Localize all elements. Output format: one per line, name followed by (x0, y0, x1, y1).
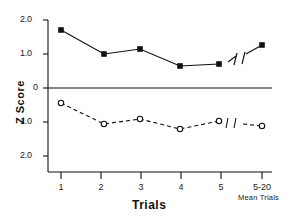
series-lower (58, 100, 264, 131)
xtick-sublabel-mean-trials: Mean Trials (238, 193, 279, 202)
xtick-label-5: 5-20 (246, 182, 278, 192)
xtick-label-3: 4 (171, 182, 191, 192)
ytick-label-1: 1.0 (20, 48, 32, 58)
y-axis-ticks (43, 20, 48, 156)
axis-break-marks-lower (226, 118, 236, 128)
ytick-label-0: 2.0 (20, 14, 32, 24)
xtick-label-4: 5 (211, 182, 231, 192)
series-upper-markers (58, 27, 265, 69)
ytick-label-4: 2.0 (20, 150, 32, 160)
xtick-label-1: 2 (91, 182, 111, 192)
xtick-label-2: 3 (131, 182, 151, 192)
ytick-label-2: 0 (33, 82, 38, 92)
xtick-label-0: 1 (51, 182, 71, 192)
y-axis-title: Z Score (14, 80, 26, 124)
chart-figure: 2.0 1.0 0 1.0 2.0 Z Score 1 2 3 4 5 5-20… (0, 0, 299, 217)
series-upper (58, 27, 265, 69)
x-axis-title: Trials (132, 198, 166, 212)
axis-break-marks-upper (234, 52, 245, 65)
x-axis-ticks (61, 172, 262, 179)
